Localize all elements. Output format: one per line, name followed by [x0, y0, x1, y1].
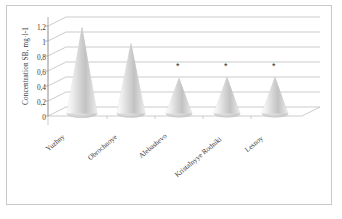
- chart-canvas: [0, 0, 342, 219]
- significance-star-alebashevo: *: [176, 62, 180, 71]
- cone-lesnoy: [262, 77, 288, 117]
- significance-star-lesnoy: *: [272, 62, 276, 71]
- plot-area: Concentration SB, mg·l-1 1,2 1 0,8 0,6 0…: [0, 0, 342, 219]
- significance-star-kristalnyye-rodniki: *: [224, 62, 228, 71]
- cone-kristalnyye-rodniki: [214, 77, 240, 117]
- cone-obrochnoye: [117, 43, 145, 118]
- y-axis: [45, 17, 48, 116]
- chart-figure: Concentration SB, mg·l-1 1,2 1 0,8 0,6 0…: [0, 0, 342, 219]
- cone-yuzhny: [67, 27, 97, 118]
- cone-alebashevo: [166, 78, 192, 117]
